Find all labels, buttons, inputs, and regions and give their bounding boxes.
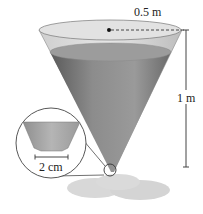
height-label: 1 m: [177, 92, 195, 104]
puddle: [67, 174, 170, 200]
conical-tank-diagram: 0.5 m 1 m 2 cm: [0, 0, 203, 214]
center-dot: [107, 28, 111, 32]
radius-label: 0.5 m: [134, 6, 161, 18]
diagram-canvas: [0, 0, 203, 214]
hole-diameter-label: 2 cm: [39, 161, 63, 173]
